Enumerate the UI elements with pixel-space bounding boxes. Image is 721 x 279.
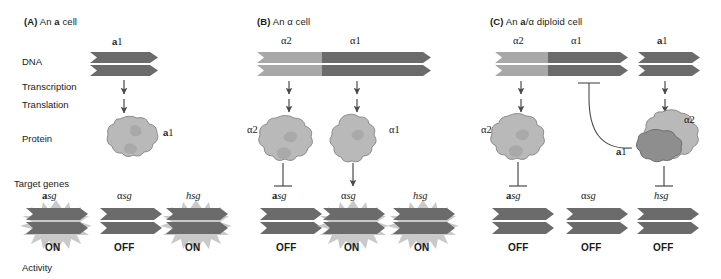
protein-label-rest: α1 bbox=[389, 124, 400, 135]
panel-c-state-asg: OFF bbox=[508, 242, 529, 253]
panel-b-title-prefix: An bbox=[273, 16, 288, 27]
panel-b-state-hsg: ON bbox=[414, 242, 429, 253]
panel-c-complex-label-a1: a1 bbox=[616, 146, 627, 157]
target-gene-hsg-bar bbox=[637, 208, 699, 234]
protein-label-rest: α2 bbox=[481, 124, 492, 135]
target-label-rest: sg bbox=[277, 190, 286, 201]
row-label-transcription: Transcription bbox=[22, 81, 77, 92]
panel-b-title: (B) An α cell bbox=[257, 16, 310, 27]
panel-c-gene-label-a1: a1 bbox=[657, 35, 668, 46]
gene-bar-alpha1 bbox=[548, 52, 628, 76]
protein-label-rest: 1 bbox=[168, 127, 173, 138]
complex-label-alpha2: α2 bbox=[684, 114, 695, 125]
row-label-protein: Protein bbox=[22, 133, 52, 144]
target-gene-asg-bar bbox=[260, 208, 322, 234]
row-label-dna: DNA bbox=[22, 56, 42, 67]
panel-b-tag: (B) bbox=[257, 16, 271, 27]
panel-b-target-label-alphasg: αsg bbox=[341, 190, 356, 201]
repression-curve-complex-to-alpha1 bbox=[578, 83, 632, 148]
panel-a-tag: (A) bbox=[24, 16, 38, 27]
panel-c-complex-label-alpha2: α2 bbox=[684, 114, 695, 125]
panel-a-state-asg: ON bbox=[45, 242, 60, 253]
panel-c-gene-label-alpha2: α2 bbox=[513, 35, 524, 46]
repression-bar-alpha2-to-asg bbox=[509, 162, 527, 186]
panel-b-protein-label-alpha1: α1 bbox=[389, 124, 400, 135]
repression-bar-alpha2-to-asg bbox=[274, 163, 292, 186]
protein-blob-alpha2 bbox=[259, 116, 313, 161]
target-label-rest: sg bbox=[123, 190, 132, 201]
panel-a-title-prefix: An bbox=[40, 16, 55, 27]
panel-a-state-hsg: ON bbox=[185, 242, 200, 253]
gene-label-rest: α2 bbox=[281, 35, 292, 46]
protein-label-rest: α2 bbox=[247, 124, 258, 135]
panel-c-target-label-alphasg: αsg bbox=[581, 190, 596, 201]
panel-c-state-hsg: OFF bbox=[653, 242, 674, 253]
panel-b-state-asg: OFF bbox=[276, 242, 297, 253]
row-label-activity: Activity bbox=[22, 262, 52, 273]
panel-a-title-suffix: cell bbox=[60, 16, 77, 27]
panel-c-graphics bbox=[491, 52, 700, 234]
gene-bar-a1 bbox=[90, 52, 158, 76]
panel-b-target-label-asg: asg bbox=[272, 190, 287, 201]
gene-bar-alpha2 bbox=[495, 52, 548, 76]
panel-b-title-suffix: cell bbox=[293, 16, 310, 27]
target-label-rest: hsg bbox=[186, 190, 201, 201]
panel-c-title-mid: /α bbox=[526, 16, 534, 27]
protein-blob-a1 bbox=[107, 116, 158, 156]
panel-b-state-alphasg: ON bbox=[344, 242, 359, 253]
complex-label-rest: 1 bbox=[621, 146, 626, 157]
panel-c-gene-label-alpha1: α1 bbox=[571, 35, 582, 46]
panel-b-target-label-hsg: hsg bbox=[413, 190, 428, 201]
target-gene-asg-bar bbox=[492, 208, 554, 234]
gene-label-rest: α1 bbox=[350, 35, 361, 46]
panel-b-gene-label-alpha1: α1 bbox=[350, 35, 361, 46]
panel-b-gene-label-alpha2: α2 bbox=[281, 35, 292, 46]
gene-label-rest: 1 bbox=[662, 35, 667, 46]
panel-a-protein-label-a1: a1 bbox=[163, 127, 174, 138]
panel-a-target-label-asg: asg bbox=[42, 190, 57, 201]
panel-a-target-label-hsg: hsg bbox=[186, 190, 201, 201]
protein-blob-alpha1 bbox=[330, 114, 376, 162]
panel-c-title: (C) An a/α diploid cell bbox=[490, 16, 582, 27]
target-label-rest: sg bbox=[47, 190, 56, 201]
panel-a-target-label-alphasg: αsg bbox=[117, 190, 132, 201]
repression-bar-complex-to-hsg bbox=[655, 166, 673, 186]
target-gene-alphasg-bar bbox=[100, 208, 162, 234]
panel-b-graphics bbox=[257, 52, 459, 251]
gene-label-rest: α1 bbox=[571, 35, 582, 46]
panel-a-title: (A) An a cell bbox=[24, 16, 77, 27]
gene-label-rest: α2 bbox=[513, 35, 524, 46]
panel-c-protein-label-alpha2: α2 bbox=[481, 124, 492, 135]
panel-c-title-suffix: diploid cell bbox=[534, 16, 582, 27]
target-label-rest: sg bbox=[347, 190, 356, 201]
target-label-rest: hsg bbox=[654, 190, 669, 201]
panel-b-protein-label-alpha2: α2 bbox=[247, 124, 258, 135]
panel-c-target-label-hsg: hsg bbox=[654, 190, 669, 201]
panel-c-title-prefix: An bbox=[506, 16, 521, 27]
target-label-rest: sg bbox=[587, 190, 596, 201]
gene-bar-alpha1 bbox=[322, 52, 431, 76]
target-gene-alphasg-bar bbox=[566, 208, 628, 234]
gene-bar-alpha2 bbox=[257, 52, 322, 76]
target-label-rest: sg bbox=[511, 190, 520, 201]
row-label-translation: Translation bbox=[22, 99, 69, 110]
gene-label-rest: 1 bbox=[117, 36, 122, 47]
panel-c-state-alphasg: OFF bbox=[581, 242, 602, 253]
protein-blob-alpha2 bbox=[491, 114, 545, 160]
yeast-mating-type-regulation-figure: DNA Transcription Translation Protein Ta… bbox=[0, 0, 721, 279]
row-label-target-genes: Target genes bbox=[14, 178, 69, 189]
gene-bar-a1 bbox=[638, 52, 700, 76]
panel-c-target-label-asg: asg bbox=[506, 190, 521, 201]
panel-a-state-alphasg: OFF bbox=[114, 242, 135, 253]
target-label-rest: hsg bbox=[413, 190, 428, 201]
panel-a-gene-label-a1: a1 bbox=[112, 36, 123, 47]
panel-c-tag: (C) bbox=[490, 16, 504, 27]
